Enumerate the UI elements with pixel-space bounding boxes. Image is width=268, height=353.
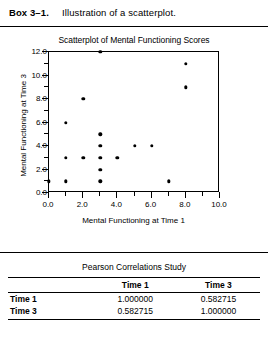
x-tick-major bbox=[219, 192, 220, 198]
x-tick-label: 10.0 bbox=[211, 200, 227, 209]
y-tick-minor bbox=[44, 180, 48, 181]
table-body: Time 11.0000000.582715Time 30.5827151.00… bbox=[8, 293, 260, 320]
data-point bbox=[64, 156, 67, 159]
table-row: Time 30.5827151.000000 bbox=[8, 305, 260, 319]
data-point bbox=[99, 180, 102, 183]
table-header: Time 1 Time 3 bbox=[8, 278, 260, 293]
data-point bbox=[64, 180, 67, 183]
data-point bbox=[99, 133, 102, 136]
chart-title: Scatterplot of Mental Functioning Scores bbox=[0, 35, 268, 45]
y-tick-minor bbox=[44, 133, 48, 134]
data-point bbox=[184, 62, 187, 65]
x-tick-minor bbox=[168, 192, 169, 196]
correlation-table: Time 1 Time 3 Time 11.0000000.582715Time… bbox=[8, 277, 260, 319]
x-tick-minor bbox=[202, 192, 203, 196]
y-tick-minor bbox=[44, 63, 48, 64]
row-header: Time 3 bbox=[8, 305, 94, 319]
table-cell: 0.582715 bbox=[94, 305, 177, 319]
x-tick-label: 4.0 bbox=[111, 200, 122, 209]
data-point bbox=[81, 97, 84, 100]
data-point bbox=[99, 156, 102, 159]
data-point bbox=[150, 144, 153, 147]
x-tick-major bbox=[151, 192, 152, 198]
correlation-table-block: Pearson Correlations Study Time 1 Time 3… bbox=[0, 262, 268, 320]
table-cell: 1.000000 bbox=[94, 293, 177, 306]
y-tick-label: 12.0 bbox=[31, 47, 47, 56]
box-caption: Box 3–1. Illustration of a scatterplot. bbox=[0, 0, 268, 27]
x-tick-label: 6.0 bbox=[145, 200, 156, 209]
data-point bbox=[99, 144, 102, 147]
figure-divider bbox=[0, 252, 268, 253]
x-tick-label: 8.0 bbox=[179, 200, 190, 209]
y-tick-label: 4.0 bbox=[36, 141, 47, 150]
data-point bbox=[99, 50, 102, 53]
x-tick-major bbox=[82, 192, 83, 198]
y-tick-minor bbox=[44, 86, 48, 87]
data-point bbox=[133, 144, 136, 147]
x-tick-minor bbox=[134, 192, 135, 196]
table-bottom-rule bbox=[8, 319, 260, 320]
y-tick-label: 10.0 bbox=[31, 70, 47, 79]
table-header-row: Time 1 Time 3 bbox=[8, 278, 260, 293]
x-tick-label: 0.0 bbox=[42, 200, 53, 209]
x-tick-label: 2.0 bbox=[77, 200, 88, 209]
data-point bbox=[81, 156, 84, 159]
y-tick-minor bbox=[44, 157, 48, 158]
table-title: Pearson Correlations Study bbox=[0, 262, 268, 272]
column-header-blank bbox=[8, 278, 94, 293]
column-header-time-1: Time 1 bbox=[94, 278, 177, 293]
x-axis-title: Mental Functioning at Time 1 bbox=[48, 216, 219, 225]
table-cell: 1.000000 bbox=[177, 305, 260, 319]
data-point bbox=[116, 156, 119, 159]
data-point bbox=[99, 168, 102, 171]
x-tick-minor bbox=[99, 192, 100, 196]
y-tick-label: 0.0 bbox=[36, 188, 47, 197]
y-tick-label: 2.0 bbox=[36, 164, 47, 173]
data-point bbox=[167, 180, 170, 183]
y-tick-label: 6.0 bbox=[36, 117, 47, 126]
table-row: Time 11.0000000.582715 bbox=[8, 293, 260, 306]
y-tick-minor bbox=[44, 110, 48, 111]
data-points-layer bbox=[49, 52, 218, 191]
table-cell: 0.582715 bbox=[177, 293, 260, 306]
data-point bbox=[64, 121, 67, 124]
x-tick-major bbox=[116, 192, 117, 198]
x-tick-major bbox=[48, 192, 49, 198]
row-header: Time 1 bbox=[8, 293, 94, 306]
y-tick-label: 8.0 bbox=[36, 94, 47, 103]
box-caption-text: Illustration of a scatterplot. bbox=[62, 7, 176, 18]
x-tick-major bbox=[185, 192, 186, 198]
plot-area bbox=[48, 51, 219, 192]
x-tick-minor bbox=[65, 192, 66, 196]
data-point bbox=[184, 86, 187, 89]
y-axis-title: Mental Functioning at Time 3 bbox=[19, 55, 28, 196]
scatterplot-figure: Scatterplot of Mental Functioning Scores… bbox=[0, 27, 268, 243]
box-caption-label: Box 3–1. bbox=[9, 7, 49, 18]
column-header-time-3: Time 3 bbox=[177, 278, 260, 293]
